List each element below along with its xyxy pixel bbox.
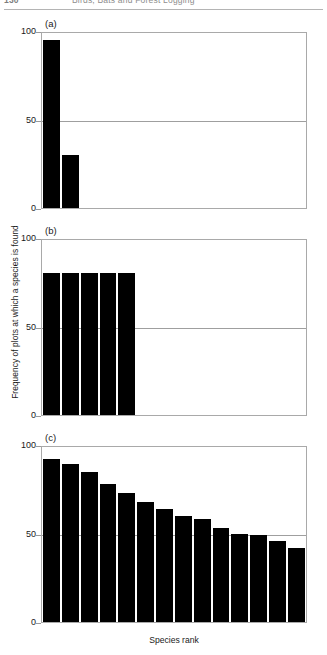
bar bbox=[62, 464, 79, 622]
x-axis-label: Species rank bbox=[41, 635, 307, 645]
plot-area bbox=[41, 32, 307, 209]
bar-slot bbox=[117, 447, 136, 622]
bar-slot bbox=[212, 240, 231, 415]
y-tick-mark bbox=[36, 416, 41, 417]
bar bbox=[231, 534, 248, 623]
bar-slot bbox=[80, 447, 99, 622]
bar-slot bbox=[230, 447, 249, 622]
bar-slot bbox=[136, 447, 155, 622]
bar bbox=[43, 459, 60, 622]
bar-slot bbox=[99, 447, 118, 622]
bar-slot bbox=[287, 447, 306, 622]
bar-slot bbox=[212, 447, 231, 622]
bar-slot bbox=[212, 33, 231, 208]
bar bbox=[62, 273, 79, 415]
bar-slot bbox=[287, 33, 306, 208]
y-tick-label: 100 bbox=[21, 27, 36, 36]
bar bbox=[137, 502, 154, 622]
y-tick-label: 50 bbox=[26, 530, 36, 539]
plot-area bbox=[41, 239, 307, 416]
bar bbox=[81, 472, 98, 622]
bar bbox=[62, 155, 79, 208]
bar bbox=[81, 273, 98, 415]
bar-slot bbox=[42, 33, 61, 208]
bar-slot bbox=[155, 447, 174, 622]
bar-slot bbox=[61, 447, 80, 622]
bar-slot bbox=[61, 240, 80, 415]
bar-slot bbox=[249, 33, 268, 208]
y-tick-label: 100 bbox=[21, 441, 36, 450]
bar-slot bbox=[174, 447, 193, 622]
bar bbox=[175, 516, 192, 622]
bar bbox=[288, 548, 305, 622]
bar-slot bbox=[136, 240, 155, 415]
bar-slot bbox=[99, 240, 118, 415]
bar-slot bbox=[268, 447, 287, 622]
y-tick-mark bbox=[36, 623, 41, 624]
bar-slot bbox=[117, 240, 136, 415]
panel-tag-b: (b) bbox=[45, 225, 57, 236]
bar-slot bbox=[155, 33, 174, 208]
bar-slot bbox=[42, 447, 61, 622]
bar-slot bbox=[136, 33, 155, 208]
bar bbox=[100, 273, 117, 415]
bar-slot bbox=[268, 33, 287, 208]
bar-slot bbox=[268, 240, 287, 415]
bar bbox=[194, 519, 211, 622]
figure-three-panel-bar-charts: Frequency of plots at which a species is… bbox=[0, 12, 327, 655]
bar bbox=[118, 493, 135, 622]
bar bbox=[250, 535, 267, 622]
chart-panel-c: (c) 100500 bbox=[0, 432, 327, 637]
bar-series bbox=[42, 447, 306, 622]
bar bbox=[118, 273, 135, 415]
bar bbox=[269, 541, 286, 622]
bar bbox=[43, 273, 60, 415]
bar-slot bbox=[193, 240, 212, 415]
bar-slot bbox=[174, 240, 193, 415]
bar-slot bbox=[117, 33, 136, 208]
bar-slot bbox=[174, 33, 193, 208]
bar-slot bbox=[249, 447, 268, 622]
header-divider bbox=[4, 9, 323, 10]
running-head-text: 130 Birds, Bats and Forest Logging bbox=[0, 0, 327, 5]
bar-series bbox=[42, 33, 306, 208]
running-head-title: Birds, Bats and Forest Logging bbox=[38, 0, 327, 5]
y-tick-label: 50 bbox=[26, 323, 36, 332]
plot-area bbox=[41, 446, 307, 623]
bar-slot bbox=[193, 447, 212, 622]
bar-slot bbox=[230, 33, 249, 208]
panel-tag-c: (c) bbox=[45, 432, 56, 443]
chart-panel-a: (a) 100500 bbox=[0, 18, 327, 223]
y-tick-mark bbox=[36, 209, 41, 210]
y-tick-label: 50 bbox=[26, 116, 36, 125]
bar-slot bbox=[193, 33, 212, 208]
bar-slot bbox=[42, 240, 61, 415]
bar-slot bbox=[61, 33, 80, 208]
running-head: 130 Birds, Bats and Forest Logging bbox=[0, 0, 327, 11]
y-tick-label: 100 bbox=[21, 234, 36, 243]
bar-slot bbox=[287, 240, 306, 415]
bar bbox=[100, 484, 117, 622]
bar-series bbox=[42, 240, 306, 415]
y-axis-ticks: 100500 bbox=[8, 432, 36, 637]
page-number: 130 bbox=[0, 0, 38, 5]
bar-slot bbox=[99, 33, 118, 208]
y-axis-ticks: 100500 bbox=[8, 225, 36, 430]
bar-slot bbox=[249, 240, 268, 415]
bar-slot bbox=[80, 33, 99, 208]
y-axis-ticks: 100500 bbox=[8, 18, 36, 223]
bar-slot bbox=[80, 240, 99, 415]
chart-panel-b: (b) 100500 bbox=[0, 225, 327, 430]
bar bbox=[43, 40, 60, 208]
bar bbox=[213, 528, 230, 622]
bar-slot bbox=[230, 240, 249, 415]
bar-slot bbox=[155, 240, 174, 415]
bar bbox=[156, 509, 173, 622]
panel-tag-a: (a) bbox=[45, 18, 57, 29]
